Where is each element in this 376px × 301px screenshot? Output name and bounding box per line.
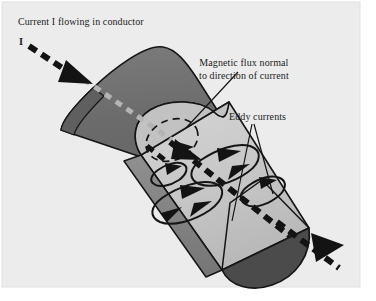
eddy-current-diagram (0, 0, 376, 301)
label-eddy-currents: Eddy currents (229, 111, 286, 123)
label-magnetic-flux-line1: Magnetic flux normal (199, 57, 289, 70)
label-current-flowing: Current I flowing in conductor (18, 16, 144, 28)
label-magnetic-flux-line2: to direction of current (199, 70, 289, 83)
figure-root: Current I flowing in conductor I Magneti… (0, 0, 376, 301)
label-magnetic-flux: Magnetic flux normal to direction of cur… (199, 57, 289, 82)
label-current-symbol: I (19, 36, 23, 48)
